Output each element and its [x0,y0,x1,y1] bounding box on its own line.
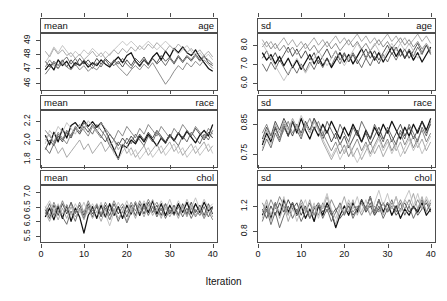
x-tick-mark-inner [431,90,432,94]
trace-line [45,47,212,71]
y-tick-label: 2.2 [23,113,32,127]
x-tick-label: 40 [419,250,443,259]
strip-header-sd-chol: sdchol [257,170,436,185]
x-tick-mark-inner [301,90,302,94]
y-tick-mark [253,206,257,207]
strip-label-variable: age [198,21,214,31]
y-tick-label: 5.5 [23,228,32,242]
x-tick-mark-top [170,13,171,17]
x-tick-mark-inner [41,165,42,169]
x-tick-mark-inner [127,90,128,94]
x-tick-mark-inner [170,90,171,94]
x-tick-label: 40 [201,250,225,259]
x-tick-mark-inner [388,165,389,169]
y-tick-mark [36,236,40,237]
x-tick-mark [41,244,42,248]
y-tick-mark [253,124,257,125]
strip-header-sd-age: sdage [257,18,436,33]
y-tick-label: 1.8 [23,152,32,166]
y-tick-label: 6.5 [23,199,32,213]
trace-line [262,43,430,64]
x-tick-mark-top [258,13,259,17]
strip-header-mean-chol: meanchol [40,170,218,185]
strip-label-variable: race [196,98,214,108]
x-tick-label: 30 [376,250,400,259]
y-tick-mark [36,159,40,160]
y-tick-label: 49 [23,32,32,46]
strip-label-statistic: mean [44,21,68,31]
trace-line [262,190,430,221]
y-tick-label: 1.2 [240,198,249,212]
y-tick-mark [253,45,257,46]
trace-line [262,38,430,55]
x-tick-mark-inner [84,90,85,94]
x-tick-mark [301,244,302,248]
strip-label-statistic: mean [44,98,68,108]
x-tick-mark [127,244,128,248]
x-tick-mark [388,244,389,248]
y-tick-mark [36,192,40,193]
y-tick-mark [36,207,40,208]
y-tick-mark [36,83,40,84]
x-tick-mark-inner [301,165,302,169]
y-tick-label: 8.0 [240,37,249,51]
strip-header-sd-race: sdrace [257,95,436,110]
x-tick-mark [431,244,432,248]
x-tick-label: 10 [289,250,313,259]
strip-header-mean-race: meanrace [40,95,218,110]
x-tick-mark [344,244,345,248]
y-tick-mark [36,221,40,222]
y-tick-mark [253,231,257,232]
y-tick-mark [253,154,257,155]
strip-label-statistic: mean [44,173,68,183]
x-tick-mark-top [127,13,128,17]
plot-area-sd-race [257,110,436,168]
x-tick-mark-inner [344,90,345,94]
plot-area-sd-chol [257,185,436,243]
x-tick-mark-inner [213,90,214,94]
strip-label-statistic: sd [261,21,271,31]
strip-label-statistic: sd [261,173,271,183]
strip-label-variable: age [416,21,432,31]
x-tick-mark-inner [388,90,389,94]
x-tick-mark-inner [431,165,432,169]
y-tick-label: 6.0 [23,214,32,228]
y-tick-label: 0.75 [240,146,249,160]
plot-area-sd-age [257,33,436,91]
y-tick-label: 2.0 [23,132,32,146]
plot-area-mean-chol [40,185,218,243]
y-tick-mark [36,40,40,41]
strip-label-statistic: sd [261,98,271,108]
strip-header-mean-age: meanage [40,18,218,33]
x-tick-mark [258,244,259,248]
y-tick-mark [36,121,40,122]
y-tick-label: 46 [23,75,32,89]
x-tick-mark-inner [258,90,259,94]
x-tick-label: 20 [115,250,139,259]
plot-area-mean-race [40,110,218,168]
y-tick-mark [36,140,40,141]
y-tick-mark [253,64,257,65]
plot-area-mean-age [40,33,218,91]
x-tick-mark-top [344,13,345,17]
x-tick-mark-top [301,13,302,17]
y-tick-label: 6.0 [240,75,249,89]
y-tick-label: 0.8 [240,223,249,237]
strip-label-variable: chol [197,173,214,183]
y-tick-mark [253,83,257,84]
strip-label-variable: chol [415,173,432,183]
y-tick-label: 48 [23,46,32,60]
x-tick-label: 30 [158,250,182,259]
x-tick-mark-inner [258,165,259,169]
x-axis-title: Iteration [0,277,447,287]
trace-plot-figure: meanage46474849sdage6.07.08.0meanrace1.8… [0,0,447,301]
x-tick-label: 20 [332,250,356,259]
x-tick-mark-inner [170,165,171,169]
y-tick-label: 0.85 [240,117,249,131]
trace-line [45,56,212,75]
x-tick-label: 10 [72,250,96,259]
x-tick-label: 0 [29,250,53,259]
y-tick-label: 47 [23,61,32,75]
strip-label-variable: race [414,98,432,108]
x-tick-mark-inner [41,90,42,94]
